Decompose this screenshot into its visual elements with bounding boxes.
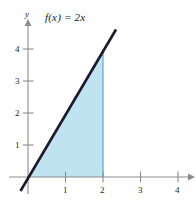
y-tick-label-3: 3 [15, 77, 20, 86]
x-tick-label-4: 4 [175, 186, 180, 195]
y-tick-label-2: 2 [15, 109, 20, 118]
plot-canvas [0, 0, 196, 204]
y-axis-label: y [25, 10, 29, 19]
function-graph-figure: y 1 2 3 4 1 2 3 4 f(x) = 2x [0, 0, 196, 204]
y-axis-arrow [25, 19, 32, 26]
x-tick-label-2: 2 [100, 186, 105, 195]
y-tick-label-1: 1 [15, 141, 20, 150]
function-expression-label: f(x) = 2x [42, 10, 88, 24]
x-tick-label-3: 3 [138, 186, 143, 195]
x-axis-arrow [188, 174, 195, 181]
x-tick-label-1: 1 [63, 186, 68, 195]
y-tick-label-4: 4 [15, 45, 20, 54]
